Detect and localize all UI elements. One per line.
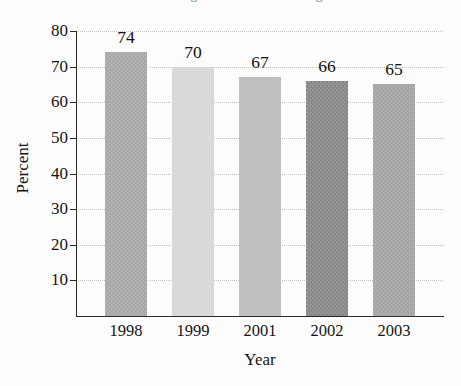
x-axis-tick-label: 1998 bbox=[95, 322, 157, 340]
bar-value-label: 66 bbox=[297, 57, 357, 75]
y-axis-tick bbox=[70, 138, 77, 139]
x-axis-tick-label: 2003 bbox=[363, 322, 425, 340]
bar-value-label: 65 bbox=[364, 60, 424, 78]
bar-value-label: 74 bbox=[96, 28, 156, 46]
bar-texture bbox=[373, 84, 415, 316]
y-axis-tick-labels: 1020304050607080 bbox=[0, 0, 68, 386]
y-axis-tick-label: 80 bbox=[34, 22, 68, 39]
y-axis-title: Percent bbox=[13, 108, 33, 228]
y-axis-tick-label: 30 bbox=[34, 200, 68, 217]
y-axis-tick-label: 60 bbox=[34, 93, 68, 110]
bar-texture bbox=[306, 81, 348, 316]
bar-texture bbox=[239, 77, 281, 316]
bars-layer bbox=[76, 0, 444, 316]
x-axis-tick-label: 1999 bbox=[162, 322, 224, 340]
bar-chart-figure: Percentage of Students Passing 102030405… bbox=[0, 0, 461, 386]
y-axis-tick bbox=[70, 102, 77, 103]
bar-texture bbox=[105, 52, 147, 316]
y-axis-tick bbox=[70, 31, 77, 32]
y-axis-tick bbox=[70, 174, 77, 175]
y-axis-tick-label: 50 bbox=[34, 129, 68, 146]
bar[interactable] bbox=[105, 52, 147, 316]
x-axis-title: Year bbox=[76, 350, 444, 370]
y-axis-tick bbox=[70, 245, 77, 246]
y-axis-tick bbox=[70, 280, 77, 281]
x-axis-tick-label: 2002 bbox=[296, 322, 358, 340]
bar[interactable] bbox=[306, 81, 348, 316]
bar-texture bbox=[172, 67, 214, 316]
bar-value-label: 67 bbox=[230, 53, 290, 71]
y-axis-tick-label: 70 bbox=[34, 58, 68, 75]
bar[interactable] bbox=[172, 67, 214, 316]
y-axis-tick bbox=[70, 209, 77, 210]
y-axis-tick bbox=[70, 67, 77, 68]
y-axis-tick-label: 40 bbox=[34, 165, 68, 182]
bar[interactable] bbox=[373, 84, 415, 316]
bar[interactable] bbox=[239, 77, 281, 316]
y-axis-tick-label: 20 bbox=[34, 236, 68, 253]
x-axis-line bbox=[76, 316, 444, 317]
bar-value-label: 70 bbox=[163, 43, 223, 61]
y-axis-tick-label: 10 bbox=[34, 271, 68, 288]
x-axis-tick-label: 2001 bbox=[229, 322, 291, 340]
